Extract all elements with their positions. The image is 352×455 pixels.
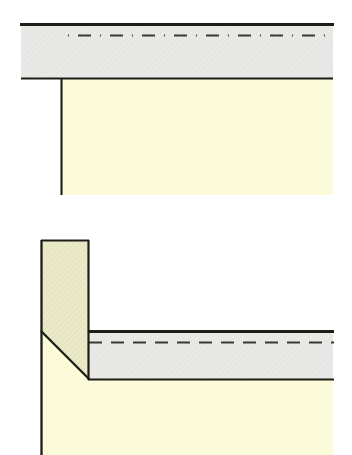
horizontal-hatched-band [89, 331, 333, 379]
figure-bottom [0, 0, 352, 455]
figure-bottom-svg [0, 0, 352, 455]
diagram-canvas [0, 0, 352, 455]
